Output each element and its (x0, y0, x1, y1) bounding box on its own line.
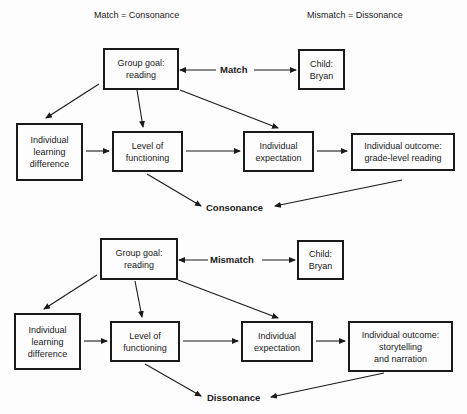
level-line1: Level of (123, 330, 167, 342)
bottom-individual-expectation-box: Individual expectation (241, 321, 313, 362)
expectation-line1: Individual (255, 140, 301, 152)
child-line2: Bryan (310, 70, 334, 82)
top-learning-difference-box: Individual learning difference (16, 123, 83, 181)
bottom-level-of-functioning-box: Level of functioning (110, 321, 180, 362)
header-mismatch-dissonance: Mismatch = Dissonance (307, 10, 403, 20)
outcome-line2: grade-level reading (364, 152, 442, 164)
bottom-learning-difference-box: Individual learning difference (14, 313, 81, 370)
outcome-line1: Individual outcome: (364, 140, 442, 152)
outcome-line1: Individual outcome: (362, 329, 440, 341)
learning-line1: Individual (28, 324, 67, 336)
bottom-individual-outcome-box: Individual outcome: storytelling and nar… (348, 321, 453, 372)
expectation-line2: expectation (254, 342, 300, 354)
outcome-line2: storytelling (362, 341, 440, 353)
top-group-goal-box: Group goal: reading (103, 48, 179, 90)
learning-line3: difference (28, 348, 67, 360)
learning-line3: difference (30, 158, 69, 170)
child-line1: Child: (310, 58, 334, 70)
bottom-group-goal-box: Group goal: reading (100, 238, 178, 280)
top-child-box: Child: Bryan (298, 49, 345, 90)
level-line2: functioning (123, 342, 167, 354)
level-line1: Level of (126, 140, 170, 152)
group-goal-line2: reading (117, 69, 164, 81)
expectation-line2: expectation (255, 152, 301, 164)
top-match-label: Match (218, 64, 249, 75)
consonance-label: Consonance (204, 202, 265, 213)
learning-line1: Individual (30, 134, 69, 146)
learning-line2: learning (30, 146, 69, 158)
group-goal-line1: Group goal: (117, 57, 164, 69)
top-individual-expectation-box: Individual expectation (243, 131, 314, 172)
diagram-canvas: Match = Consonance Mismatch = Dissonance… (0, 0, 467, 414)
learning-line2: learning (28, 336, 67, 348)
child-line2: Bryan (309, 260, 333, 272)
group-goal-line2: reading (115, 259, 162, 271)
outcome-line3: and narration (362, 353, 440, 365)
child-line1: Child: (309, 248, 333, 260)
group-goal-line1: Group goal: (115, 247, 162, 259)
top-individual-outcome-box: Individual outcome: grade-level reading (351, 133, 455, 171)
level-line2: functioning (126, 152, 170, 164)
bottom-mismatch-label: Mismatch (208, 254, 256, 265)
header-match-consonance: Match = Consonance (94, 10, 179, 20)
expectation-line1: Individual (254, 330, 300, 342)
bottom-child-box: Child: Bryan (297, 240, 344, 280)
dissonance-label: Dissonance (205, 392, 262, 403)
top-level-of-functioning-box: Level of functioning (112, 131, 183, 172)
